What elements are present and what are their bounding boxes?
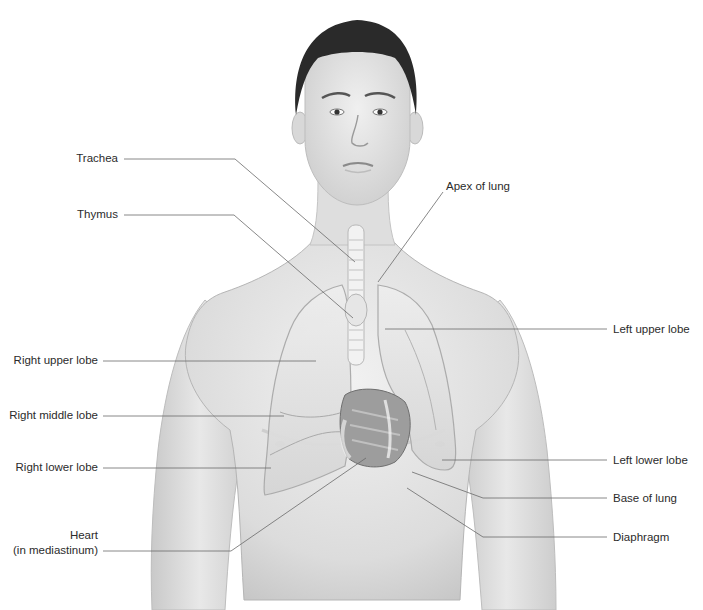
thymus [345, 294, 367, 326]
label-right-lower-lobe: Right lower lobe [0, 461, 98, 474]
head [292, 20, 423, 205]
label-left-upper-lobe: Left upper lobe [613, 323, 690, 336]
heart [340, 389, 410, 467]
label-trachea: Trachea [40, 152, 118, 165]
label-diaphragm: Diaphragm [613, 531, 669, 544]
human-torso-illustration [0, 0, 703, 610]
label-base-of-lung: Base of lung [613, 492, 677, 505]
thorax-diagram: Trachea Thymus Right upper lobe Right mi… [0, 0, 703, 610]
label-heart: Heart [0, 529, 98, 542]
label-thymus: Thymus [40, 208, 118, 221]
label-left-lower-lobe: Left lower lobe [613, 454, 688, 467]
label-heart-subtext: (in mediastinum) [0, 544, 98, 557]
label-right-middle-lobe: Right middle lobe [0, 409, 98, 422]
label-apex-of-lung: Apex of lung [446, 180, 510, 193]
label-right-upper-lobe: Right upper lobe [0, 354, 98, 367]
